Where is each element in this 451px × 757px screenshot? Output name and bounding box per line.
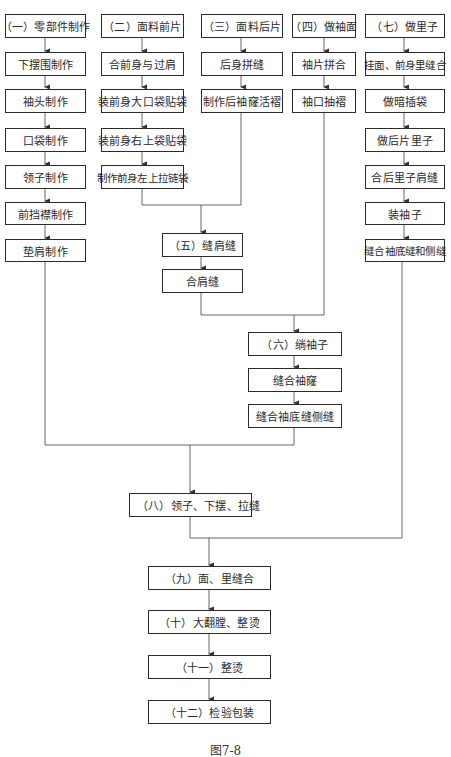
- col2-title-box: （二）面料前片: [101, 14, 184, 38]
- col5-step-3: 做后片里子: [365, 128, 445, 152]
- col2-title: （二）面料前片: [103, 18, 181, 34]
- col5-step-5: 装袖子: [365, 202, 445, 225]
- step-label: 袖头制作: [23, 93, 68, 109]
- col4-step-1: 袖片拼合: [292, 52, 356, 76]
- step-label: 缝合袖底缝和侧缝: [364, 243, 446, 258]
- step-label: 制作前身左上拉链袋: [97, 170, 189, 185]
- merge-six-step-1: 缝合袖窿: [248, 368, 342, 392]
- step-label: （十一）整烫: [176, 659, 243, 675]
- merge-six-step-2: 缝合袖底缝侧缝: [248, 404, 342, 428]
- step-label: 下摆围制作: [18, 56, 74, 72]
- merge-six-title-box: （六）绱袖子: [248, 332, 342, 356]
- step-label: 口袋制作: [23, 132, 68, 148]
- step-label: 做后片里子: [377, 132, 433, 148]
- step-label: 袖片拼合: [302, 56, 347, 72]
- col5-step-6: 缝合袖底缝和侧缝: [365, 239, 445, 262]
- col1-step-1: 下摆围制作: [5, 52, 86, 76]
- col4-step-2: 袖口抽褶: [292, 89, 356, 113]
- col5-step-2: 做暗插袋: [365, 89, 445, 113]
- final-step-8: （八）领子、下摆、拉缝: [129, 493, 252, 517]
- step-label: （六）绱袖子: [261, 336, 328, 352]
- step-label: （十二）检验包装: [165, 704, 255, 720]
- step-label: 后身拼缝: [220, 56, 265, 72]
- final-step-9: （九）面、里缝合: [148, 566, 271, 590]
- col1-step-3: 口袋制作: [5, 128, 86, 152]
- step-label: 垫肩制作: [23, 243, 68, 259]
- col5-step-1: 挂面、前身里缝合: [365, 52, 445, 76]
- step-label: 合肩缝: [186, 273, 220, 289]
- step-label: 装袖子: [388, 206, 422, 222]
- col4-title-box: （四）做袖面: [292, 14, 356, 38]
- col1-step-2: 袖头制作: [5, 89, 86, 113]
- col5-step-4: 合后里子肩缝: [365, 165, 445, 189]
- col1-title: （一）零部件制作: [1, 18, 91, 34]
- step-label: 袖口抽褶: [302, 93, 347, 109]
- col5-title: （七）做里子: [371, 18, 438, 34]
- step-label: 前挡襟制作: [18, 206, 74, 222]
- col4-title: （四）做袖面: [290, 18, 357, 34]
- merge-five-step-1: 合肩缝: [162, 269, 243, 293]
- col2-step-2: 装前身大口袋贴袋: [101, 89, 184, 113]
- col2-step-1: 合前身与过肩: [101, 52, 184, 76]
- final-step-10: （十）大翻膛、整烫: [148, 610, 271, 634]
- step-label: （十）大翻膛、整烫: [159, 614, 260, 630]
- col2-step-3: 装前身右上袋贴袋: [101, 128, 184, 152]
- final-step-12: （十二）检验包装: [148, 700, 271, 724]
- step-label: 缝合袖窿: [273, 372, 318, 388]
- step-label: 制作后袖窿活褶: [203, 93, 281, 109]
- col1-title-box: （一）零部件制作: [5, 14, 86, 38]
- col1-step-6: 垫肩制作: [5, 239, 86, 262]
- step-label: （五）缝肩缝: [169, 237, 236, 253]
- col3-title: （三）面料后片: [203, 18, 281, 34]
- col1-step-4: 领子制作: [5, 165, 86, 189]
- step-label: 装前身大口袋贴袋: [98, 93, 188, 109]
- col1-step-5: 前挡襟制作: [5, 202, 86, 225]
- step-label: 挂面、前身里缝合: [364, 57, 446, 72]
- col2-step-4: 制作前身左上拉链袋: [101, 165, 184, 189]
- col3-title-box: （三）面料后片: [201, 14, 283, 38]
- step-label: 装前身右上袋贴袋: [98, 132, 188, 148]
- step-label: 做暗插袋: [383, 93, 428, 109]
- connector-lines: [0, 0, 451, 757]
- merge-five-title-box: （五）缝肩缝: [162, 233, 243, 257]
- col5-title-box: （七）做里子: [365, 14, 445, 38]
- col3-step-2: 制作后袖窿活褶: [201, 89, 283, 113]
- figure-caption: 图7-8: [0, 741, 451, 757]
- step-label: （九）面、里缝合: [165, 570, 255, 586]
- col3-step-1: 后身拼缝: [201, 52, 283, 76]
- step-label: 缝合袖底缝侧缝: [256, 408, 334, 424]
- step-label: 合前身与过肩: [109, 56, 176, 72]
- step-label: 合后里子肩缝: [371, 169, 438, 185]
- step-label: （八）领子、下摆、拉缝: [137, 497, 260, 513]
- final-step-11: （十一）整烫: [148, 655, 271, 679]
- step-label: 领子制作: [23, 169, 68, 185]
